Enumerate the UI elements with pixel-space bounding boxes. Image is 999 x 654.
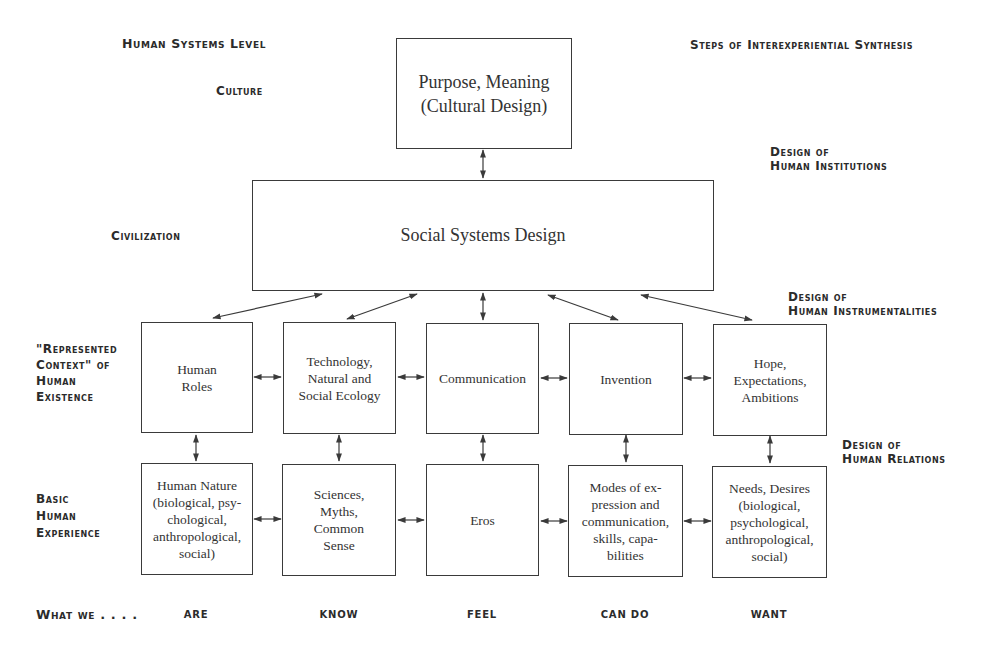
box-modes-of-expression-text: Modes of ex- pression and communication,… — [582, 479, 669, 564]
box-hope-expectations: Hope, Expectations, Ambitions — [713, 324, 827, 436]
box-sciences-myths-text: Sciences, Myths, Common Sense — [314, 486, 365, 554]
box-purpose-meaning: Purpose, Meaning (Cultural Design) — [396, 38, 572, 149]
box-hope-expectations-text: Hope, Expectations, Ambitions — [733, 355, 806, 406]
box-human-nature-text: Human Nature (biological, psy- chologica… — [153, 477, 241, 562]
bottom-label-want: WANT — [713, 609, 825, 620]
box-needs-desires: Needs, Desires (biological, psychologica… — [712, 466, 827, 578]
box-communication-text: Communication — [439, 370, 526, 387]
bottom-label-are: ARE — [140, 609, 252, 620]
box-social-systems-design: Social Systems Design — [252, 180, 714, 291]
box-technology-ecology-text: Technology, Natural and Social Ecology — [298, 353, 380, 404]
box-modes-of-expression: Modes of ex- pression and communication,… — [568, 465, 683, 577]
box-communication: Communication — [426, 323, 539, 434]
bottom-label-feel: FEEL — [426, 609, 538, 620]
box-human-roles: Human Roles — [141, 322, 253, 433]
box-eros: Eros — [426, 464, 539, 576]
box-needs-desires-text: Needs, Desires (biological, psychologica… — [725, 480, 813, 565]
box-social-systems-design-text: Social Systems Design — [401, 225, 566, 246]
box-invention-text: Invention — [600, 371, 652, 388]
box-human-nature: Human Nature (biological, psy- chologica… — [141, 463, 253, 575]
box-invention: Invention — [569, 323, 683, 435]
bottom-label-can-do: CAN DO — [569, 609, 681, 620]
box-sciences-myths: Sciences, Myths, Common Sense — [282, 464, 396, 576]
box-technology-ecology: Technology, Natural and Social Ecology — [283, 322, 396, 434]
bottom-label-know: KNOW — [283, 609, 395, 620]
box-eros-text: Eros — [470, 512, 495, 529]
box-purpose-meaning-text: Purpose, Meaning (Cultural Design) — [419, 70, 550, 118]
box-human-roles-text: Human Roles — [177, 361, 217, 395]
